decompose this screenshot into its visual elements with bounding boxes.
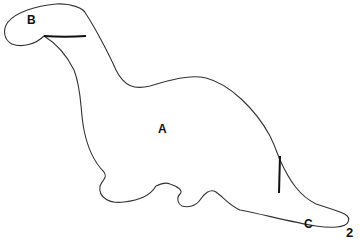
region-label-b: B [27, 14, 36, 26]
region-label-a: A [158, 123, 167, 135]
dinosaur-outline-drawing [0, 0, 360, 244]
divider-body-tail [279, 156, 280, 193]
region-label-c: C [304, 218, 313, 230]
figure-number: 2 [346, 226, 353, 239]
divider-head-neck [44, 36, 86, 37]
